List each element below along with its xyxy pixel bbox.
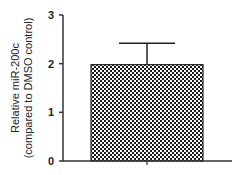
x-axis bbox=[63, 161, 232, 165]
y-tick-label-2: 2 bbox=[48, 58, 54, 70]
y-axis: 0123 bbox=[48, 9, 63, 167]
bar-0 bbox=[91, 65, 203, 161]
y-axis-label-line2: (compared to DMSO control) bbox=[22, 18, 34, 159]
y-tick-label-1: 1 bbox=[48, 106, 54, 118]
y-tick-label-0: 0 bbox=[48, 155, 54, 167]
y-tick-label-3: 3 bbox=[48, 9, 54, 21]
y-axis-label: Relative miR-200c (compared to DMSO cont… bbox=[9, 18, 34, 159]
bars bbox=[91, 43, 203, 161]
bar-chart: Relative miR-200c (compared to DMSO cont… bbox=[0, 0, 242, 175]
y-axis-label-line1: Relative miR-200c bbox=[9, 43, 21, 133]
